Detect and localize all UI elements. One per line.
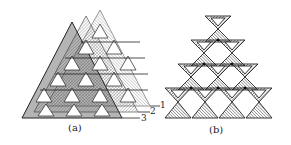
panel-b-structure [165, 16, 272, 118]
panel-a-structure [22, 10, 160, 118]
panel-a-caption: (a) [68, 123, 82, 133]
crystal-structure-figure [0, 0, 291, 145]
panel-a-layer-label-3: 3 [141, 114, 147, 123]
panel-a-layer-label-2: 2 [150, 107, 156, 116]
panel-a-layer-label-1: 1 [160, 101, 166, 110]
panel-b-caption: (b) [209, 125, 223, 135]
